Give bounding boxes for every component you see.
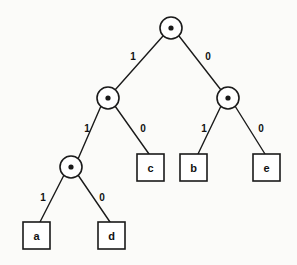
leaf-label-d: d xyxy=(108,230,115,242)
leaf-label-c: c xyxy=(147,162,153,174)
edge-label-ll-d: 0 xyxy=(99,192,105,203)
internal-node-left[interactable] xyxy=(97,87,119,109)
leaf-label-e: e xyxy=(263,162,269,174)
edge-label-root-right: 0 xyxy=(205,51,211,62)
edge-label-right-e: 0 xyxy=(258,123,264,134)
edge-label-right-b: 1 xyxy=(201,123,207,134)
diagram-canvas: c b e a d xyxy=(0,0,297,265)
edge-label-left-ll: 1 xyxy=(84,123,90,134)
edge-group xyxy=(40,36,265,222)
edge-ll-to-d xyxy=(78,175,110,222)
binary-tree-diagram: c b e a d xyxy=(0,0,297,265)
node-dot-icon xyxy=(105,95,110,100)
internal-node-root[interactable] xyxy=(160,17,182,39)
internal-node-right[interactable] xyxy=(217,87,239,109)
edge-root-to-left xyxy=(115,36,163,90)
internal-node-left-left[interactable] xyxy=(60,156,82,178)
edge-root-to-right xyxy=(179,36,221,90)
leaf-label-b: b xyxy=(190,162,197,174)
edge-label-root-left: 1 xyxy=(130,51,136,62)
leaf-label-a: a xyxy=(33,230,40,242)
node-dot-icon xyxy=(225,95,230,100)
node-dot-icon xyxy=(168,25,173,30)
edge-label-left-c: 0 xyxy=(140,123,146,134)
edge-label-ll-a: 1 xyxy=(40,192,46,203)
node-dot-icon xyxy=(68,164,73,169)
